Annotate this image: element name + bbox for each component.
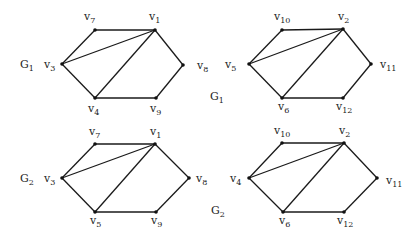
graph-g1-left: v7v1v3v8v4v9G1 [20, 10, 208, 117]
vertex-v9 [154, 96, 158, 100]
vertex-label-v1: v1 [148, 10, 160, 25]
edge-v4-v10 [249, 143, 282, 178]
vertex-v5 [247, 62, 251, 66]
vertex-label-v5: v5 [89, 214, 101, 229]
vertex-label-v8: v8 [196, 59, 208, 74]
vertex-label-v6: v6 [278, 214, 290, 229]
vertex-v11 [375, 176, 379, 180]
vertex-v2 [341, 27, 345, 31]
graph-name-label: G1 [20, 58, 34, 73]
graph-g1-right: v10v2v5v11v6v12G1 [210, 10, 396, 115]
edge-v11-v12 [343, 64, 371, 98]
edge-v6-v2 [283, 143, 344, 212]
vertex-label-v10: v10 [273, 124, 290, 139]
edge-v3-v1 [62, 30, 155, 64]
vertex-v10 [280, 141, 284, 145]
edge-v3-v4 [62, 64, 95, 98]
vertex-label-v7: v7 [83, 10, 95, 25]
vertex-v4 [93, 96, 97, 100]
edge-v8-v9 [156, 178, 189, 212]
graph-name-label: G2 [20, 172, 34, 187]
vertex-label-v1: v1 [149, 125, 161, 140]
edge-v8-v9 [156, 65, 183, 98]
vertex-v7 [93, 142, 97, 146]
edge-v11-v12 [344, 178, 377, 212]
vertex-v2 [342, 141, 346, 145]
edge-v3-v7 [62, 30, 95, 64]
vertex-label-v11: v11 [385, 174, 402, 189]
vertex-v1 [153, 28, 157, 32]
vertex-v8 [181, 63, 185, 67]
edge-v5-v10 [249, 30, 282, 64]
vertex-v3 [60, 176, 64, 180]
vertex-label-v11: v11 [379, 58, 396, 73]
edge-v3-v7 [62, 144, 95, 178]
edge-v6-v2 [282, 29, 343, 98]
vertex-v11 [369, 62, 373, 66]
vertex-label-v6: v6 [277, 100, 289, 115]
vertex-v4 [247, 176, 251, 180]
edge-v4-v1 [95, 30, 155, 98]
vertex-label-v8: v8 [195, 172, 207, 187]
edge-v1-v8 [155, 144, 189, 178]
edge-v2-v11 [343, 29, 371, 64]
vertex-label-v7: v7 [88, 125, 100, 140]
vertex-label-v3: v3 [43, 172, 55, 187]
edge-v5-v6 [249, 64, 282, 98]
edge-v5-v1 [95, 144, 155, 212]
vertex-label-v9: v9 [149, 102, 161, 117]
graph-name-label: G1 [210, 90, 224, 105]
vertex-label-v10: v10 [273, 10, 290, 25]
vertex-label-v4: v4 [87, 102, 99, 117]
edge-v2-v11 [344, 143, 377, 178]
graph-g2-left: v7v1v3v8v5v9G2 [20, 125, 207, 229]
edge-v5-v2 [249, 29, 343, 64]
edge-v10-v2 [282, 29, 343, 30]
vertex-label-v2: v2 [337, 10, 349, 25]
graph-name-label: G2 [211, 204, 225, 219]
vertex-v7 [93, 28, 97, 32]
vertex-label-v12: v12 [336, 214, 353, 229]
vertex-label-v9: v9 [150, 214, 162, 229]
vertex-v1 [153, 142, 157, 146]
vertex-label-v12: v12 [335, 100, 352, 115]
graph-g2-right: v10v2v4v11v6v12G2 [211, 124, 402, 229]
graph-diagram: v7v1v3v8v4v9G1v10v2v5v11v6v12G1v7v1v3v8v… [0, 0, 420, 246]
vertex-label-v4: v4 [229, 172, 241, 187]
edge-v3-v5 [62, 178, 95, 212]
vertex-v8 [187, 176, 191, 180]
edge-v1-v8 [155, 30, 183, 65]
edge-v3-v1 [62, 144, 155, 178]
vertex-label-v5: v5 [224, 58, 236, 73]
edge-v4-v6 [249, 178, 283, 212]
vertex-label-v2: v2 [338, 124, 350, 139]
vertex-v10 [280, 28, 284, 32]
vertex-v3 [60, 62, 64, 66]
edge-v4-v2 [249, 143, 344, 178]
vertex-label-v3: v3 [43, 58, 55, 73]
